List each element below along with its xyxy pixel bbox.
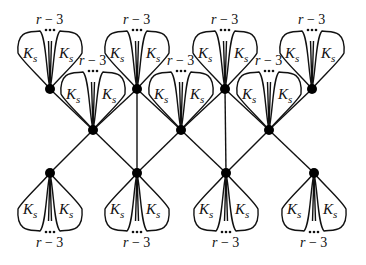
ellipsis-dot bbox=[132, 231, 135, 234]
ellipsis-dot bbox=[225, 231, 228, 234]
ellipsis-dot bbox=[53, 231, 56, 234]
ellipsis-dot bbox=[228, 29, 231, 32]
count-label: r − 3 bbox=[123, 12, 150, 27]
count-label: r − 3 bbox=[79, 53, 106, 68]
count-label: r − 3 bbox=[167, 53, 194, 68]
edge bbox=[181, 130, 226, 173]
vertex bbox=[221, 168, 231, 178]
ellipsis-dot bbox=[180, 70, 183, 73]
ellipsis-dot bbox=[313, 231, 316, 234]
ellipsis-dot bbox=[45, 29, 48, 32]
petal-cluster: KsKsr − 3 bbox=[282, 173, 346, 250]
ellipsis-dot bbox=[96, 70, 99, 73]
count-label: r − 3 bbox=[255, 53, 282, 68]
petal-cluster: KsKsr − 3 bbox=[105, 173, 169, 250]
count-label: r − 3 bbox=[298, 12, 325, 27]
ellipsis-dot bbox=[311, 29, 314, 32]
ellipsis-dot bbox=[136, 231, 139, 234]
ellipsis-dot bbox=[176, 70, 179, 73]
ellipsis-dot bbox=[53, 29, 56, 32]
graph-diagram: KsKsr − 3KsKsr − 3KsKsr − 3KsKsr − 3KsKs… bbox=[0, 0, 366, 265]
ellipsis-dot bbox=[315, 29, 318, 32]
vertex bbox=[309, 168, 319, 178]
count-label: r − 3 bbox=[36, 235, 63, 250]
count-label: r − 3 bbox=[300, 235, 327, 250]
count-label: r − 3 bbox=[212, 235, 239, 250]
ellipsis-dot bbox=[220, 29, 223, 32]
vertex bbox=[88, 125, 98, 135]
ellipsis-dot bbox=[307, 29, 310, 32]
ellipsis-dot bbox=[45, 231, 48, 234]
vertex bbox=[307, 84, 317, 94]
vertex bbox=[132, 168, 142, 178]
ellipsis-dot bbox=[92, 70, 95, 73]
vertex bbox=[176, 125, 186, 135]
vertex bbox=[45, 84, 55, 94]
edge bbox=[226, 130, 269, 173]
edge bbox=[269, 130, 314, 173]
count-label: r − 3 bbox=[36, 12, 63, 27]
ellipsis-dot bbox=[88, 70, 91, 73]
vertex bbox=[220, 84, 230, 94]
vertex bbox=[45, 168, 55, 178]
ellipsis-dot bbox=[49, 231, 52, 234]
vertex bbox=[132, 84, 142, 94]
petal-cluster: KsKsr − 3 bbox=[194, 173, 258, 250]
ellipsis-dot bbox=[272, 70, 275, 73]
edge bbox=[93, 130, 137, 173]
ellipsis-dot bbox=[136, 29, 139, 32]
ellipsis-dot bbox=[229, 231, 232, 234]
ellipsis-dot bbox=[309, 231, 312, 234]
ellipsis-dot bbox=[184, 70, 187, 73]
ellipsis-dot bbox=[221, 231, 224, 234]
vertex bbox=[264, 125, 274, 135]
ellipsis-dot bbox=[140, 231, 143, 234]
ellipsis-dot bbox=[49, 29, 52, 32]
ellipsis-dot bbox=[268, 70, 271, 73]
petal-cluster: KsKsr − 3 bbox=[18, 173, 82, 250]
count-label: r − 3 bbox=[123, 235, 150, 250]
ellipsis-dot bbox=[132, 29, 135, 32]
ellipsis-dot bbox=[224, 29, 227, 32]
ellipsis-dot bbox=[264, 70, 267, 73]
edge bbox=[50, 130, 93, 173]
edge bbox=[225, 89, 226, 173]
count-label: r − 3 bbox=[211, 12, 238, 27]
edge bbox=[137, 130, 181, 173]
ellipsis-dot bbox=[317, 231, 320, 234]
ellipsis-dot bbox=[140, 29, 143, 32]
